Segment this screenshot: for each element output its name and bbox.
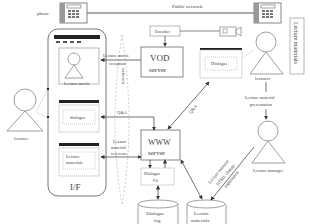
learner-label: learner [14, 136, 28, 141]
lecture-materials-side-label: Lecture materials [293, 22, 299, 64]
material-reference-label-3: reference [111, 151, 128, 156]
phone-icon-left [60, 3, 87, 23]
qa-diagonal-label: Q&A [188, 103, 199, 114]
if-dialogue-label: dialogue [70, 115, 86, 120]
public-network-label: Public network [172, 4, 203, 9]
connector-dot-bottom [47, 116, 49, 118]
vod-server-label-1: VOD [150, 53, 170, 63]
lecture-materials-db-label-1: Lecture [194, 211, 210, 216]
www-materials-db-arrow [181, 160, 202, 199]
material-reference-label-2: material [111, 145, 126, 150]
presentation-label-1: Lecture material [245, 95, 275, 100]
www-server-label-2: server [148, 149, 166, 157]
lecture-materials-db-label-2: materials [191, 218, 209, 223]
connector-dot-top [47, 88, 49, 90]
network-label: network [121, 68, 126, 85]
qa-left-label: Q&A [117, 110, 128, 115]
www-server-label-1: WWW [148, 138, 171, 147]
if-materials-label-1: Lecture [66, 154, 80, 159]
encoder-label: Encoder [155, 29, 170, 34]
presentation-label-2: presentation [250, 102, 273, 107]
learner-icon [7, 88, 48, 131]
lecture-movie-reception-label-1: Lecture movie [103, 53, 129, 58]
interface-device [48, 29, 106, 196]
dialogue-log-label-2: log [154, 218, 161, 223]
vod-server-label-2: server [149, 66, 167, 74]
lecture-movie-reception-label-2: reception [109, 61, 126, 66]
system-diagram: Public network phone Lectu [0, 0, 310, 224]
lecturer-icon [244, 32, 283, 74]
lecture-manager-icon [252, 121, 285, 163]
if-materials-label-2: materials [66, 160, 83, 165]
lecturer-label: lecturer [255, 76, 271, 81]
dialogue-fit-label-2: Fit [153, 178, 159, 183]
phone-icon-right [254, 3, 281, 23]
dialogue-log-label-1: Dialogue [146, 211, 165, 216]
dialogue-fit-label-1: Dialogue [144, 171, 161, 176]
phone-label: phone [37, 11, 50, 16]
material-reference-label-1: Lecture [113, 139, 127, 144]
camera-icon [220, 27, 241, 36]
qa-diagonal-arrow [168, 82, 209, 129]
if-label: I/F [70, 182, 81, 192]
lecture-manager-label: Lecture manager [253, 168, 284, 173]
dialogue-window-label: Dialogue [211, 61, 228, 66]
lecture-movie-label: Lecture movie [64, 81, 90, 86]
